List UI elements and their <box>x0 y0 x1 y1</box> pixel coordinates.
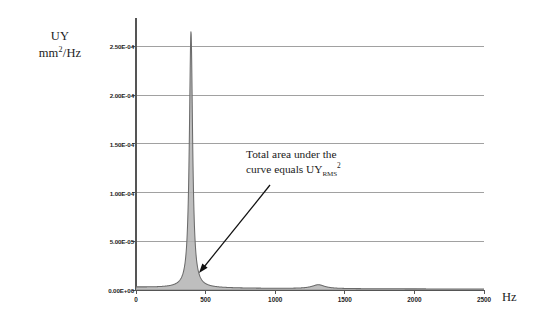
x-tick-label: 0 <box>116 296 156 303</box>
x-tick-label: 2500 <box>464 296 504 303</box>
area-annotation-text: Total area under the curve equals UYRMS2 <box>246 147 422 177</box>
x-tick-label: 2000 <box>394 296 434 303</box>
psd-chart-figure: UY mm2/Hz 0.00E+005.00E-051.00E-041.50E-… <box>0 0 546 320</box>
annotation-line-2-pre: curve equals UY <box>246 163 323 175</box>
x-tick-label: 1000 <box>255 296 295 303</box>
annotation-line-2: curve equals UYRMS2 <box>246 162 422 177</box>
x-axis-unit-label: Hz <box>502 290 517 305</box>
annotation-rms-subscript: RMS <box>323 170 338 178</box>
annotation-squared-superscript: 2 <box>337 161 341 170</box>
x-tick-label: 1500 <box>325 296 365 303</box>
annotation-line-1: Total area under the <box>246 147 422 162</box>
x-tick-label: 500 <box>186 296 226 303</box>
